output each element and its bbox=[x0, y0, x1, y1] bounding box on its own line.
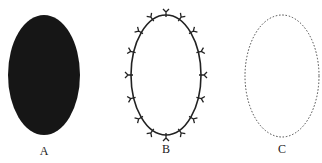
label-a: A bbox=[34, 144, 54, 159]
ellipse-b-with-markers bbox=[125, 9, 207, 141]
label-b: B bbox=[156, 142, 176, 157]
diagram-canvas bbox=[0, 0, 322, 163]
ellipse-a-filled bbox=[8, 15, 80, 135]
ellipse-c-dotted bbox=[245, 15, 319, 137]
label-c: C bbox=[272, 142, 292, 157]
